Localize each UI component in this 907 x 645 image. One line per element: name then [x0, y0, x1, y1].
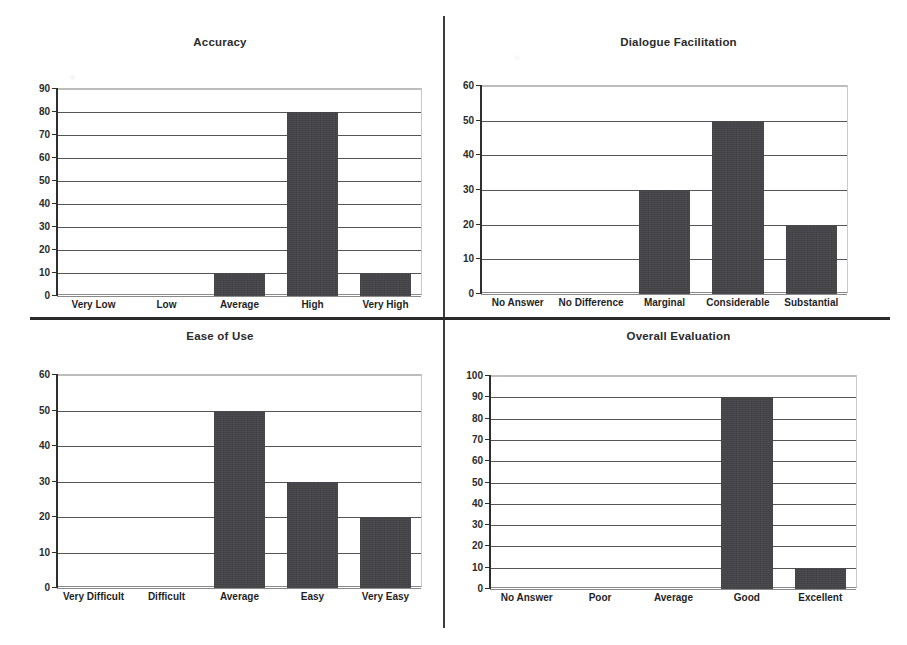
- y-axis-tick-label: 100: [466, 370, 483, 381]
- x-axis-category-label: Very High: [349, 299, 422, 310]
- y-tick-mark: [52, 180, 56, 181]
- y-tick-mark: [476, 85, 480, 86]
- y-axis-tick-label: 60: [39, 369, 50, 380]
- y-tick-mark: [52, 295, 56, 296]
- bar: [639, 190, 690, 294]
- y-axis: [56, 374, 58, 588]
- y-axis-tick-label: 80: [39, 106, 50, 117]
- bar: [360, 517, 411, 588]
- y-axis-tick-label: 40: [39, 440, 50, 451]
- gridline: [57, 588, 421, 589]
- gridline: [481, 294, 847, 295]
- bar: [214, 411, 265, 589]
- x-axis-category-label: Substantial: [775, 297, 848, 308]
- gridline: [490, 376, 856, 377]
- y-tick-mark: [52, 481, 56, 482]
- vertical-divider: [443, 16, 445, 628]
- gridline: [57, 158, 421, 159]
- horizontal-divider: [30, 317, 890, 320]
- x-axis-category-label: Very Difficult: [57, 591, 130, 602]
- x-axis-category-label: No Difference: [554, 297, 627, 308]
- gridline: [490, 461, 856, 462]
- y-axis-tick-label: 10: [39, 546, 50, 557]
- bar: [360, 273, 411, 296]
- chart-title: Ease of Use: [0, 330, 440, 342]
- y-tick-mark: [476, 189, 480, 190]
- chart-title: Accuracy: [0, 36, 440, 48]
- y-tick-mark: [476, 154, 480, 155]
- y-axis: [480, 85, 482, 294]
- x-axis-category-label: Considerable: [701, 297, 774, 308]
- y-tick-mark: [52, 410, 56, 411]
- y-tick-mark: [476, 224, 480, 225]
- x-axis-category-label: No Answer: [481, 297, 554, 308]
- y-axis-tick-label: 20: [39, 244, 50, 255]
- bar: [712, 121, 763, 294]
- gridline: [57, 112, 421, 113]
- y-tick-mark: [476, 120, 480, 121]
- y-axis-tick-label: 30: [472, 519, 483, 530]
- chart-title: Dialogue Facilitation: [450, 36, 907, 48]
- y-axis-tick-label: 50: [39, 175, 50, 186]
- y-axis-tick-label: 60: [463, 80, 474, 91]
- x-axis-category-label: Very Low: [57, 299, 130, 310]
- y-axis-tick-label: 20: [39, 511, 50, 522]
- y-tick-mark: [52, 374, 56, 375]
- y-axis-tick-label: 30: [39, 475, 50, 486]
- bar: [287, 112, 338, 296]
- bar: [721, 397, 772, 589]
- x-axis-category-label: High: [276, 299, 349, 310]
- gridline: [57, 204, 421, 205]
- y-tick-mark: [52, 226, 56, 227]
- y-axis-tick-label: 60: [472, 455, 483, 466]
- y-tick-mark: [52, 587, 56, 588]
- y-axis-tick-label: 60: [39, 152, 50, 163]
- y-tick-mark: [485, 460, 489, 461]
- x-axis-category-label: Marginal: [628, 297, 701, 308]
- y-tick-mark: [52, 445, 56, 446]
- y-tick-mark: [476, 258, 480, 259]
- gridline: [490, 589, 856, 590]
- y-axis-tick-label: 20: [472, 540, 483, 551]
- y-axis-tick-label: 80: [472, 412, 483, 423]
- y-axis-tick-label: 0: [44, 582, 50, 593]
- gridline: [57, 250, 421, 251]
- y-axis-tick-label: 40: [472, 497, 483, 508]
- y-axis: [489, 375, 491, 589]
- gridline: [57, 296, 421, 297]
- y-axis-tick-label: 30: [39, 221, 50, 232]
- y-axis-tick-label: 40: [463, 149, 474, 160]
- x-axis-category-label: Difficult: [130, 591, 203, 602]
- plot-area: [481, 85, 848, 293]
- bar: [786, 225, 837, 294]
- y-axis-tick-label: 50: [472, 476, 483, 487]
- y-tick-mark: [485, 588, 489, 589]
- x-axis-category-label: Very Easy: [349, 591, 422, 602]
- chart-dialogue-facilitation: Dialogue Facilitation 0102030405060No An…: [450, 36, 907, 316]
- gridline: [490, 397, 856, 398]
- bar: [287, 482, 338, 589]
- y-tick-mark: [52, 134, 56, 135]
- gridline: [490, 525, 856, 526]
- y-tick-mark: [52, 552, 56, 553]
- x-axis-category-label: No Answer: [490, 592, 563, 603]
- x-axis-category-label: Average: [203, 591, 276, 602]
- gridline: [57, 89, 421, 90]
- y-tick-mark: [485, 503, 489, 504]
- bar: [795, 568, 846, 589]
- x-axis-category-label: Poor: [563, 592, 636, 603]
- y-axis-tick-label: 90: [39, 83, 50, 94]
- y-tick-mark: [485, 418, 489, 419]
- y-axis-tick-label: 10: [39, 267, 50, 278]
- y-tick-mark: [485, 482, 489, 483]
- y-axis-tick-label: 0: [468, 288, 474, 299]
- gridline: [481, 155, 847, 156]
- y-axis: [56, 88, 58, 296]
- y-axis-tick-label: 70: [39, 129, 50, 140]
- y-axis-tick-label: 50: [463, 114, 474, 125]
- y-axis-tick-label: 90: [472, 391, 483, 402]
- chart-overall-evaluation: Overall Evaluation 010203040506070809010…: [450, 330, 907, 620]
- bar: [214, 273, 265, 296]
- y-axis-tick-label: 0: [44, 290, 50, 301]
- y-axis-tick-label: 10: [472, 561, 483, 572]
